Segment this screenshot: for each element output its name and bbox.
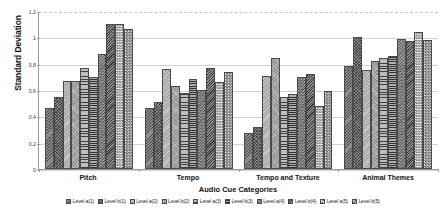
- bar: [280, 97, 289, 169]
- chart-legend: Level a(1)Level b(1)Level a(2)Level b(2)…: [0, 198, 446, 204]
- bar: [388, 56, 397, 169]
- legend-swatch-icon: [98, 199, 103, 204]
- bar: [54, 97, 63, 169]
- legend-label: Level b(1): [105, 198, 126, 204]
- bar: [45, 108, 54, 169]
- x-axis-tick-mark: [39, 169, 40, 172]
- legend-label: Level a(3): [200, 198, 221, 204]
- y-axis-tick-label: 0: [33, 167, 36, 173]
- bar: [297, 77, 306, 169]
- legend-swatch-icon: [257, 199, 262, 204]
- bar: [371, 61, 380, 169]
- bar: [224, 72, 233, 169]
- category-label: Tempo and Texture: [238, 174, 338, 181]
- bar: [63, 81, 72, 169]
- bar: [253, 127, 262, 169]
- legend-label: Level b(5): [358, 198, 379, 204]
- bar: [397, 39, 406, 169]
- legend-swatch-icon: [320, 199, 325, 204]
- bar: [154, 102, 163, 169]
- bar: [80, 68, 89, 169]
- bar: [353, 37, 362, 169]
- bar: [315, 106, 324, 169]
- legend-swatch-icon: [288, 199, 293, 204]
- category-label: Tempo: [138, 174, 238, 181]
- bar: [362, 70, 371, 169]
- bar: [423, 40, 432, 169]
- category-label: Pitch: [38, 174, 138, 181]
- x-axis-tick-mark: [438, 169, 439, 172]
- x-axis-tick-mark: [139, 169, 140, 172]
- legend-label: Level b(4): [295, 198, 316, 204]
- legend-swatch-icon: [193, 199, 198, 204]
- legend-label: Level b(2): [168, 198, 189, 204]
- y-axis-title: Standard Deviation: [13, 0, 23, 113]
- y-axis-tick-label: 1: [33, 35, 36, 41]
- x-axis-tick-mark: [239, 169, 240, 172]
- legend-label: Level b(3): [232, 198, 253, 204]
- legend-item[interactable]: Level b(5): [352, 198, 380, 204]
- bar-group: [239, 12, 339, 169]
- bar-chart: Standard Deviation 00.20.40.60.811.2 Pit…: [0, 0, 446, 213]
- legend-swatch-icon: [225, 199, 230, 204]
- legend-swatch-icon: [130, 199, 135, 204]
- bar: [288, 94, 297, 169]
- bar: [206, 68, 215, 169]
- bar: [180, 93, 189, 169]
- legend-swatch-icon: [66, 199, 71, 204]
- bar: [324, 91, 333, 169]
- legend-label: Level a(2): [136, 198, 157, 204]
- bar: [162, 69, 171, 169]
- bar: [215, 82, 224, 169]
- bar: [124, 29, 133, 169]
- bar: [106, 24, 115, 169]
- legend-label: Level a(1): [73, 198, 94, 204]
- bar: [89, 77, 98, 169]
- bar-groups: [39, 12, 438, 169]
- legend-item[interactable]: Level a(3): [193, 198, 221, 204]
- bar-group: [39, 12, 139, 169]
- plot-area: 00.20.40.60.811.2: [38, 12, 438, 170]
- bar-group: [338, 12, 438, 169]
- legend-swatch-icon: [352, 199, 357, 204]
- bar: [197, 90, 206, 169]
- legend-item[interactable]: Level b(4): [288, 198, 316, 204]
- bar: [262, 76, 271, 169]
- category-label: Animal Themes: [338, 174, 438, 181]
- bar: [189, 79, 198, 169]
- legend-item[interactable]: Level a(5): [320, 198, 348, 204]
- y-axis-tick-label: 0.2: [29, 141, 36, 147]
- legend-item[interactable]: Level a(1): [66, 198, 94, 204]
- legend-label: Level a(5): [327, 198, 348, 204]
- legend-item[interactable]: Level b(2): [162, 198, 190, 204]
- legend-label: Level a(4): [263, 198, 284, 204]
- y-axis-tick-label: 0.4: [29, 114, 36, 120]
- y-axis-tick-label: 0.6: [29, 88, 36, 94]
- bar: [414, 32, 423, 169]
- bar: [98, 54, 107, 169]
- legend-item[interactable]: Level a(2): [130, 198, 158, 204]
- bar: [406, 41, 415, 169]
- legend-swatch-icon: [162, 199, 167, 204]
- bar: [115, 24, 124, 169]
- category-labels: PitchTempoTempo and TextureAnimal Themes: [38, 174, 438, 181]
- bar: [244, 133, 253, 169]
- y-axis-tick-label: 0.8: [29, 62, 36, 68]
- bar: [344, 66, 353, 169]
- y-axis-tick-label: 1.2: [29, 9, 36, 15]
- legend-item[interactable]: Level b(1): [98, 198, 126, 204]
- bar: [71, 81, 80, 169]
- bar-group: [139, 12, 239, 169]
- bar: [271, 58, 280, 169]
- bar: [171, 86, 180, 169]
- legend-item[interactable]: Level a(4): [257, 198, 285, 204]
- bar: [145, 108, 154, 169]
- x-axis-title: Audio Cue Categories: [38, 185, 438, 194]
- legend-item[interactable]: Level b(3): [225, 198, 253, 204]
- bar: [306, 74, 315, 169]
- bar: [379, 58, 388, 169]
- x-axis-tick-mark: [338, 169, 339, 172]
